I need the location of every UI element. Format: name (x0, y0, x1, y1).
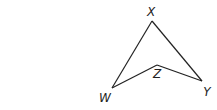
vertex-label-x: X (146, 5, 156, 19)
vertex-label-y: Y (203, 85, 212, 99)
vertex-label-z: Z (152, 67, 162, 81)
vertex-labels: X Y Z W (99, 5, 212, 105)
vertex-label-w: W (99, 91, 112, 105)
dart-diagram: X Y Z W (0, 0, 217, 110)
